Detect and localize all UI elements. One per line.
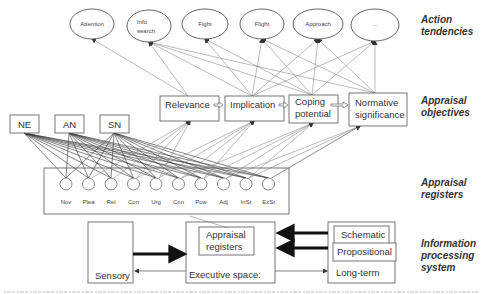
register-node — [60, 178, 72, 190]
action-tendency-fight: Fight — [182, 9, 228, 39]
register-label: Con — [173, 199, 184, 205]
label-info-processing-3: system — [421, 262, 456, 273]
objective-tendency-link — [318, 39, 375, 93]
svg-text:registers: registers — [206, 241, 243, 252]
register-label: Con — [128, 199, 139, 205]
objective-tendency-link — [205, 39, 312, 95]
register-node — [128, 178, 140, 190]
register-objective-link — [227, 126, 361, 178]
objective-tendency-link — [149, 42, 188, 96]
objective-tendency-link — [312, 41, 375, 95]
register-node — [150, 178, 162, 190]
source-register-link — [66, 133, 114, 178]
objective-relevance: Relevance — [160, 96, 219, 121]
source-register-link — [114, 133, 156, 178]
objective-tendency-link — [149, 42, 375, 93]
label-info-processing-1: Information — [421, 238, 476, 249]
svg-text:Relevance: Relevance — [165, 99, 210, 110]
svg-text:significance: significance — [355, 109, 405, 120]
svg-text:Propositional: Propositional — [337, 246, 392, 257]
sensory-box: Sensory — [88, 222, 133, 283]
action-tendency-info-search: Info search — [127, 10, 171, 42]
source-register-link — [66, 133, 69, 178]
appraisal-objectives-row: Relevance Implication Coping potential N… — [160, 93, 407, 126]
action-tendencies-row: Attention Info search Fight Flight Appro… — [70, 9, 399, 42]
label-appraisal-objectives-2: objectives — [421, 107, 470, 118]
long-term-box: Schematic Propositional Long-term — [328, 222, 396, 283]
register-label: Pow — [195, 199, 207, 205]
register-objective-link — [272, 126, 361, 178]
action-tendency-attention: Attention — [70, 9, 114, 39]
objective-tendency-link — [149, 42, 252, 96]
register-objective-link — [204, 121, 254, 178]
register-label: InSt — [241, 199, 252, 205]
svg-text:Executive space:: Executive space: — [189, 269, 261, 280]
label-action-tendencies-1: Action — [420, 14, 452, 25]
svg-text:NE: NE — [18, 119, 31, 130]
register-label: Nov — [61, 199, 72, 205]
label-appraisal-objectives-1: Appraisal — [420, 95, 467, 106]
objective-tendency-link — [252, 39, 262, 96]
svg-text:Approach: Approach — [305, 21, 331, 27]
appraisal-architecture-diagram: Attention Info search Fight Flight Appro… — [0, 0, 481, 294]
label-appraisal-registers-2: registers — [421, 189, 464, 200]
source-an: AN — [55, 115, 84, 133]
register-node — [173, 178, 185, 190]
figure-caption-clipped — [0, 289, 481, 294]
action-tendency-approach: Approach — [293, 9, 343, 39]
register-node — [263, 178, 275, 190]
source-boxes: NE AN SN — [10, 115, 129, 133]
executive-space-box: Appraisal registers Executive space: — [186, 222, 275, 283]
svg-text:Implication: Implication — [230, 99, 275, 110]
objective-tendency-link — [149, 42, 312, 95]
register-label: Rel — [106, 199, 115, 205]
register-label: Plea — [82, 199, 95, 205]
register-label: Adj — [219, 199, 228, 205]
svg-text:potential: potential — [295, 108, 331, 119]
svg-text:SN: SN — [108, 119, 121, 130]
svg-text:Schematic: Schematic — [341, 229, 386, 240]
objective-coping-potential: Coping potential — [289, 95, 338, 123]
objective-implication: Implication — [225, 96, 284, 121]
svg-text:search: search — [137, 28, 155, 34]
side-labels: Action tendencies Appraisal objectives A… — [420, 14, 476, 273]
register-node — [105, 178, 117, 190]
action-tendency-flight: Flight — [240, 9, 284, 39]
label-info-processing-2: processing — [420, 250, 474, 261]
objective-tendency-link — [252, 41, 375, 96]
svg-text:Fight: Fight — [198, 21, 212, 27]
label-action-tendencies-2: tendencies — [421, 26, 474, 37]
register-node — [195, 178, 207, 190]
source-register-link — [114, 133, 269, 178]
register-label: ExSt — [262, 199, 275, 205]
objective-tendency-link — [262, 39, 312, 95]
source-sn: SN — [100, 115, 129, 133]
svg-text:...: ... — [372, 21, 377, 27]
register-objective-link — [182, 121, 255, 178]
register-objective-link — [249, 126, 360, 178]
svg-text:Info: Info — [137, 19, 148, 25]
register-node — [218, 178, 230, 190]
svg-text:AN: AN — [63, 119, 76, 130]
objective-tendency-link — [205, 39, 252, 96]
source-ne: NE — [10, 115, 39, 133]
register-objective-link — [137, 121, 191, 178]
svg-text:Sensory: Sensory — [95, 270, 130, 281]
objective-normative-significance: Normative significance — [349, 93, 407, 126]
register-node — [240, 178, 252, 190]
register-label: Urg — [151, 199, 161, 205]
action-tendency-more: ... — [351, 9, 399, 41]
svg-text:Appraisal: Appraisal — [206, 229, 246, 240]
svg-text:Coping: Coping — [295, 96, 325, 107]
svg-text:Attention: Attention — [80, 21, 104, 27]
register-node — [83, 178, 95, 190]
information-processing-system: Sensory Appraisal registers Executive sp… — [88, 216, 396, 283]
label-appraisal-registers-1: Appraisal — [420, 177, 467, 188]
svg-text:Normative: Normative — [355, 97, 398, 108]
register-objective-link — [227, 123, 314, 178]
svg-text:Long-term: Long-term — [336, 267, 379, 278]
svg-text:Flight: Flight — [255, 21, 270, 27]
